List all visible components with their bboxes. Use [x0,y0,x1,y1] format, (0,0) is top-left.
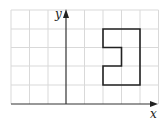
x-axis: x [11,101,158,121]
y-axis: y [54,7,69,104]
grid [11,10,159,104]
y-axis-label: y [54,7,62,21]
coordinate-diagram: x y [0,0,163,123]
x-axis-label: x [150,107,157,121]
